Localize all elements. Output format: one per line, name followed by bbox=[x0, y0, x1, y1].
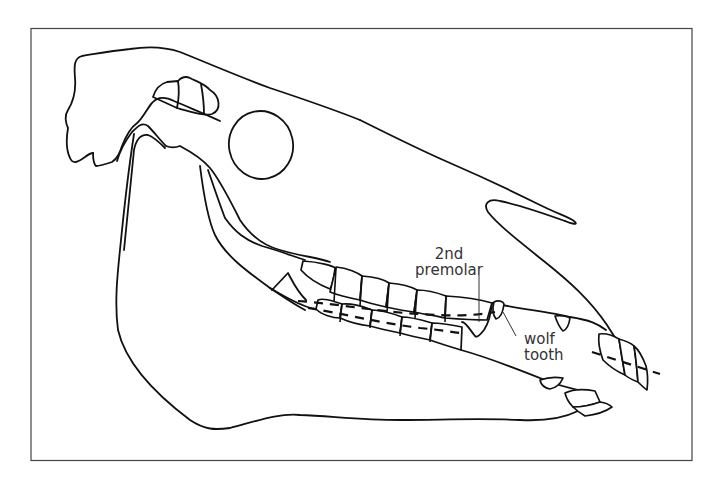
upper-diastema bbox=[492, 303, 606, 330]
label-tooth: tooth bbox=[524, 346, 564, 364]
facial-crest bbox=[117, 124, 330, 262]
mandibular-ramus-inner bbox=[200, 166, 305, 310]
horse-skull-diagram: 2nd premolar wolf tooth bbox=[0, 0, 718, 488]
wolf-tooth-leader-line bbox=[503, 312, 516, 336]
cranium-outline bbox=[66, 47, 360, 162]
upper-canine bbox=[555, 316, 570, 331]
wolf-tooth bbox=[493, 301, 504, 319]
zygomatic-arch bbox=[93, 98, 220, 166]
lower-incisors bbox=[565, 389, 612, 416]
facial-crest-inner bbox=[124, 135, 165, 250]
lower-canine bbox=[540, 377, 563, 389]
coronoid-notch bbox=[272, 273, 306, 300]
upper-skull-line bbox=[360, 120, 576, 224]
eye-orbit bbox=[223, 105, 300, 185]
label-premolar: premolar bbox=[415, 261, 484, 279]
temporal-fossa bbox=[153, 77, 219, 115]
